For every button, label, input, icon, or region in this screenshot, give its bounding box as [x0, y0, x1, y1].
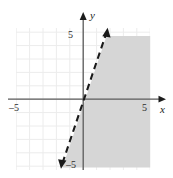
- x-tick-label-5: 5: [142, 103, 147, 113]
- y-tick-label-5: 5: [68, 30, 73, 40]
- shaded-solution-region: [63, 36, 151, 168]
- x-tick-label-neg5: –5: [9, 103, 19, 113]
- y-tick-label-neg5: –5: [66, 160, 76, 170]
- coordinate-plane: [0, 0, 173, 178]
- y-axis-label: y: [90, 10, 95, 21]
- graph-figure: 5 –5 5 –5 x y: [0, 0, 173, 178]
- x-axis-label: x: [160, 104, 165, 115]
